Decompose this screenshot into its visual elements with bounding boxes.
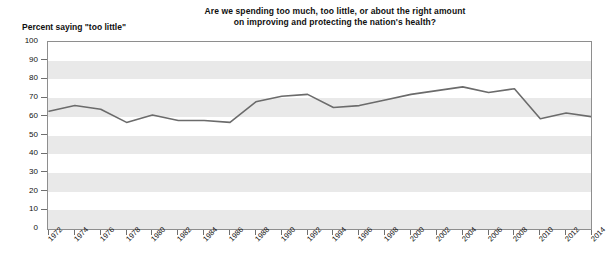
y-axis-label: Percent saying "too little" [22,22,126,32]
y-axis-tick-label: 100 [25,36,47,45]
y-axis-tick-70: 70 [0,92,47,102]
y-axis-tick-20: 20 [0,186,47,196]
y-axis-tick-60: 60 [0,111,47,121]
chart-container: Are we spending too much, too little, or… [0,0,609,265]
y-axis-tick-50: 50 [0,130,47,140]
chart-title-line-1: Are we spending too much, too little, or… [180,6,490,17]
chart-title-line-2: on improving and protecting the nation's… [180,17,490,28]
y-axis-tick-80: 80 [0,73,47,83]
y-axis-tick-label: 0 [34,223,47,232]
chart-title: Are we spending too much, too little, or… [180,6,490,28]
y-axis-tick-30: 30 [0,167,47,177]
y-axis: 0102030405060708090100 [0,41,47,230]
y-axis-tick-40: 40 [0,148,47,158]
x-axis: 1972197419761978198019821984198619881990… [47,230,592,265]
y-axis-tick-10: 10 [0,204,47,214]
y-axis-tick-0: 0 [0,223,47,233]
plot-area [47,41,592,230]
y-axis-tick-100: 100 [0,36,47,46]
y-axis-tick-90: 90 [0,55,47,65]
data-series-line [48,42,591,229]
